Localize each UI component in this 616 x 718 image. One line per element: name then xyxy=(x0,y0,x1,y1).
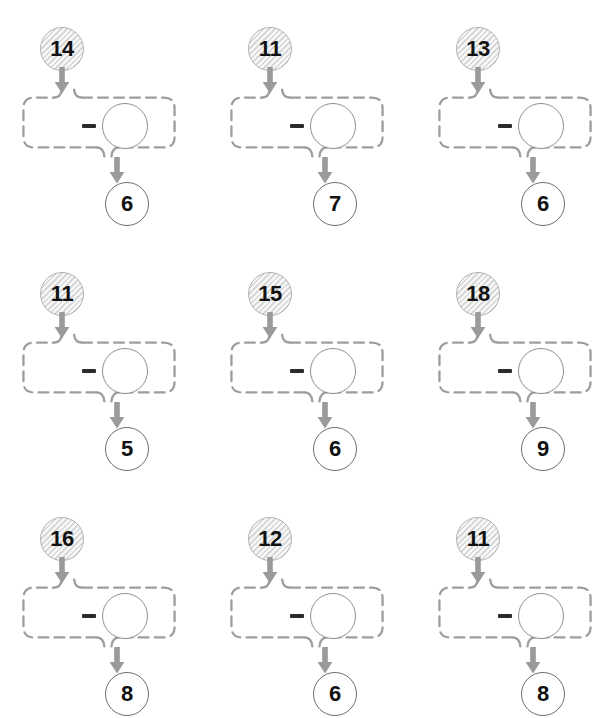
function-machine-problem: 189 xyxy=(420,272,610,472)
output-arrow-down-icon xyxy=(525,647,541,675)
output-arrow-down-icon xyxy=(109,402,125,430)
function-machine-box xyxy=(212,332,402,412)
result-number-bubble: 5 xyxy=(105,427,149,471)
output-arrow-down-icon xyxy=(109,647,125,675)
worksheet-canvas: 146117136115156189168126118 xyxy=(0,0,616,718)
result-number-bubble: 6 xyxy=(313,672,357,716)
input-number-bubble: 15 xyxy=(248,272,292,316)
function-machine-box xyxy=(420,87,610,167)
function-machine-box xyxy=(212,577,402,657)
minus-sign-icon xyxy=(290,369,304,373)
output-arrow-down-icon xyxy=(317,402,333,430)
function-machine-box xyxy=(4,332,194,412)
function-machine-box xyxy=(4,577,194,657)
arrow-down-icon xyxy=(525,647,541,675)
arrow-down-icon xyxy=(317,157,333,185)
minus-sign-icon xyxy=(82,124,96,128)
output-arrow-down-icon xyxy=(525,157,541,185)
function-machine-problem: 118 xyxy=(420,517,610,717)
function-machine-box xyxy=(420,577,610,657)
input-number-bubble: 18 xyxy=(456,272,500,316)
input-number-bubble: 14 xyxy=(40,27,84,71)
missing-number-blank[interactable] xyxy=(310,593,356,639)
function-machine-box xyxy=(212,87,402,167)
result-number-bubble: 6 xyxy=(313,427,357,471)
result-number-bubble: 6 xyxy=(105,182,149,226)
input-number-bubble: 13 xyxy=(456,27,500,71)
output-arrow-down-icon xyxy=(317,647,333,675)
missing-number-blank[interactable] xyxy=(310,103,356,149)
minus-sign-icon xyxy=(82,614,96,618)
arrow-down-icon xyxy=(317,402,333,430)
input-number-bubble: 16 xyxy=(40,517,84,561)
result-number-bubble: 7 xyxy=(313,182,357,226)
minus-sign-icon xyxy=(82,369,96,373)
output-arrow-down-icon xyxy=(109,157,125,185)
missing-number-blank[interactable] xyxy=(518,593,564,639)
missing-number-blank[interactable] xyxy=(518,103,564,149)
missing-number-blank[interactable] xyxy=(310,348,356,394)
result-number-bubble: 6 xyxy=(521,182,565,226)
arrow-down-icon xyxy=(109,157,125,185)
minus-sign-icon xyxy=(290,124,304,128)
function-machine-problem: 126 xyxy=(212,517,402,717)
function-machine-problem: 146 xyxy=(4,27,194,227)
missing-number-blank[interactable] xyxy=(102,103,148,149)
missing-number-blank[interactable] xyxy=(102,348,148,394)
arrow-down-icon xyxy=(525,402,541,430)
arrow-down-icon xyxy=(109,402,125,430)
arrow-down-icon xyxy=(109,647,125,675)
result-number-bubble: 8 xyxy=(521,672,565,716)
function-machine-problem: 156 xyxy=(212,272,402,472)
input-number-bubble: 11 xyxy=(248,27,292,71)
minus-sign-icon xyxy=(498,369,512,373)
function-machine-problem: 117 xyxy=(212,27,402,227)
arrow-down-icon xyxy=(525,157,541,185)
function-machine-problem: 168 xyxy=(4,517,194,717)
minus-sign-icon xyxy=(290,614,304,618)
missing-number-blank[interactable] xyxy=(518,348,564,394)
minus-sign-icon xyxy=(498,124,512,128)
arrow-down-icon xyxy=(317,647,333,675)
output-arrow-down-icon xyxy=(525,402,541,430)
input-number-bubble: 12 xyxy=(248,517,292,561)
function-machine-problem: 115 xyxy=(4,272,194,472)
missing-number-blank[interactable] xyxy=(102,593,148,639)
function-machine-box xyxy=(420,332,610,412)
function-machine-problem: 136 xyxy=(420,27,610,227)
output-arrow-down-icon xyxy=(317,157,333,185)
minus-sign-icon xyxy=(498,614,512,618)
result-number-bubble: 9 xyxy=(521,427,565,471)
input-number-bubble: 11 xyxy=(40,272,84,316)
function-machine-box xyxy=(4,87,194,167)
result-number-bubble: 8 xyxy=(105,672,149,716)
input-number-bubble: 11 xyxy=(456,517,500,561)
